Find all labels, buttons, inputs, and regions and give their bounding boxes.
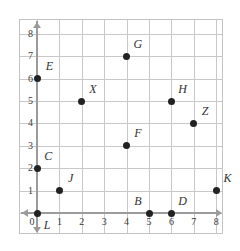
data-point-G — [123, 53, 130, 60]
point-label-G: G — [133, 38, 142, 50]
point-label-K: K — [223, 172, 231, 184]
y-tick-label-6: 6 — [28, 74, 33, 84]
gridline-vertical — [216, 20, 217, 233]
x-tick-label-2: 2 — [79, 217, 84, 227]
x-tick-label-5: 5 — [147, 217, 152, 227]
gridline-horizontal — [20, 34, 222, 35]
point-label-C: C — [44, 150, 52, 162]
data-point-K — [213, 187, 220, 194]
y-axis-arrow-down-icon — [33, 227, 41, 233]
x-tick-label-4: 4 — [124, 217, 129, 227]
x-tick-label-1: 1 — [57, 217, 62, 227]
gridline-horizontal — [20, 56, 222, 57]
gridline-vertical — [149, 20, 150, 233]
y-axis-arrow-up-icon — [33, 22, 41, 28]
x-tick-label-6: 6 — [169, 217, 174, 227]
grid-area: 012345678 12345678 LCEJXGFBDHZK — [19, 19, 223, 234]
point-label-L: L — [44, 219, 51, 231]
gridline-vertical — [59, 20, 60, 233]
data-point-Z — [190, 120, 197, 127]
point-label-Z: Z — [202, 105, 209, 117]
y-tick-label-3: 3 — [28, 141, 33, 151]
data-point-L — [34, 210, 41, 217]
gridline-vertical — [127, 20, 128, 233]
gridline-vertical — [171, 20, 172, 233]
y-tick-label-7: 7 — [28, 51, 33, 61]
y-axis — [36, 21, 38, 232]
point-label-E: E — [46, 60, 53, 72]
y-tick-label-8: 8 — [28, 29, 33, 39]
point-label-F: F — [134, 127, 141, 139]
gridline-horizontal — [20, 101, 222, 102]
x-axis-arrow-left-icon — [22, 209, 28, 217]
point-label-H: H — [178, 83, 187, 95]
data-point-E — [34, 75, 41, 82]
data-point-C — [34, 165, 41, 172]
gridline-vertical — [104, 20, 105, 233]
gridline-horizontal — [20, 146, 222, 147]
gridline-horizontal — [20, 79, 222, 80]
x-tick-label-8: 8 — [214, 217, 219, 227]
y-tick-label-1: 1 — [28, 186, 33, 196]
point-label-D: D — [178, 195, 187, 207]
gridline-vertical — [82, 20, 83, 233]
point-label-X: X — [89, 83, 96, 95]
data-point-D — [168, 210, 175, 217]
y-tick-label-4: 4 — [28, 118, 33, 128]
gridline-horizontal — [20, 168, 222, 169]
x-tick-label-3: 3 — [102, 217, 107, 227]
x-tick-label-0: 0 — [30, 217, 35, 227]
gridline-horizontal — [20, 191, 222, 192]
data-point-H — [168, 98, 175, 105]
x-tick-label-7: 7 — [191, 217, 196, 227]
data-point-X — [78, 98, 85, 105]
data-point-F — [123, 142, 130, 149]
point-label-J: J — [68, 172, 73, 184]
data-point-B — [146, 210, 153, 217]
coordinate-plane: 012345678 12345678 LCEJXGFBDHZK — [0, 0, 240, 251]
point-label-B: B — [134, 195, 141, 207]
x-axis — [21, 212, 221, 214]
data-point-J — [56, 187, 63, 194]
y-tick-label-2: 2 — [28, 163, 33, 173]
y-tick-label-5: 5 — [28, 96, 33, 106]
